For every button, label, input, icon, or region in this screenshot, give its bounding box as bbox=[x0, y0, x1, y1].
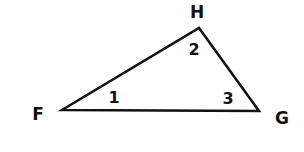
triangle-svg: F G H 1 2 3 bbox=[0, 0, 304, 152]
angle-label-3: 3 bbox=[222, 89, 233, 108]
angle-label-1: 1 bbox=[108, 88, 119, 107]
vertex-label-h: H bbox=[190, 2, 204, 22]
vertex-label-f: F bbox=[32, 104, 44, 124]
triangle-diagram: F G H 1 2 3 bbox=[0, 0, 304, 152]
angle-label-2: 2 bbox=[188, 40, 199, 59]
vertex-label-g: G bbox=[275, 108, 289, 128]
